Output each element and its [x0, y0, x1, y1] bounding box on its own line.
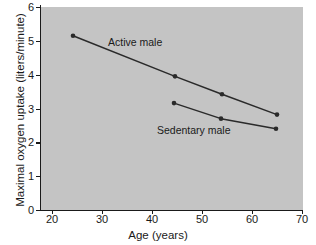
data-point	[173, 74, 178, 79]
chart-figure: 6 5 4 3 2 1 0 20 30 40 50 60 70 Age (yea…	[0, 0, 316, 245]
data-point	[274, 127, 279, 132]
series-label-active-male: Active male	[108, 37, 162, 48]
data-point	[172, 101, 177, 106]
data-point	[219, 116, 224, 121]
data-point	[275, 112, 280, 117]
series-label-sedentary-male: Sedentary male	[157, 125, 231, 136]
data-point	[220, 92, 225, 97]
data-point	[71, 33, 76, 38]
